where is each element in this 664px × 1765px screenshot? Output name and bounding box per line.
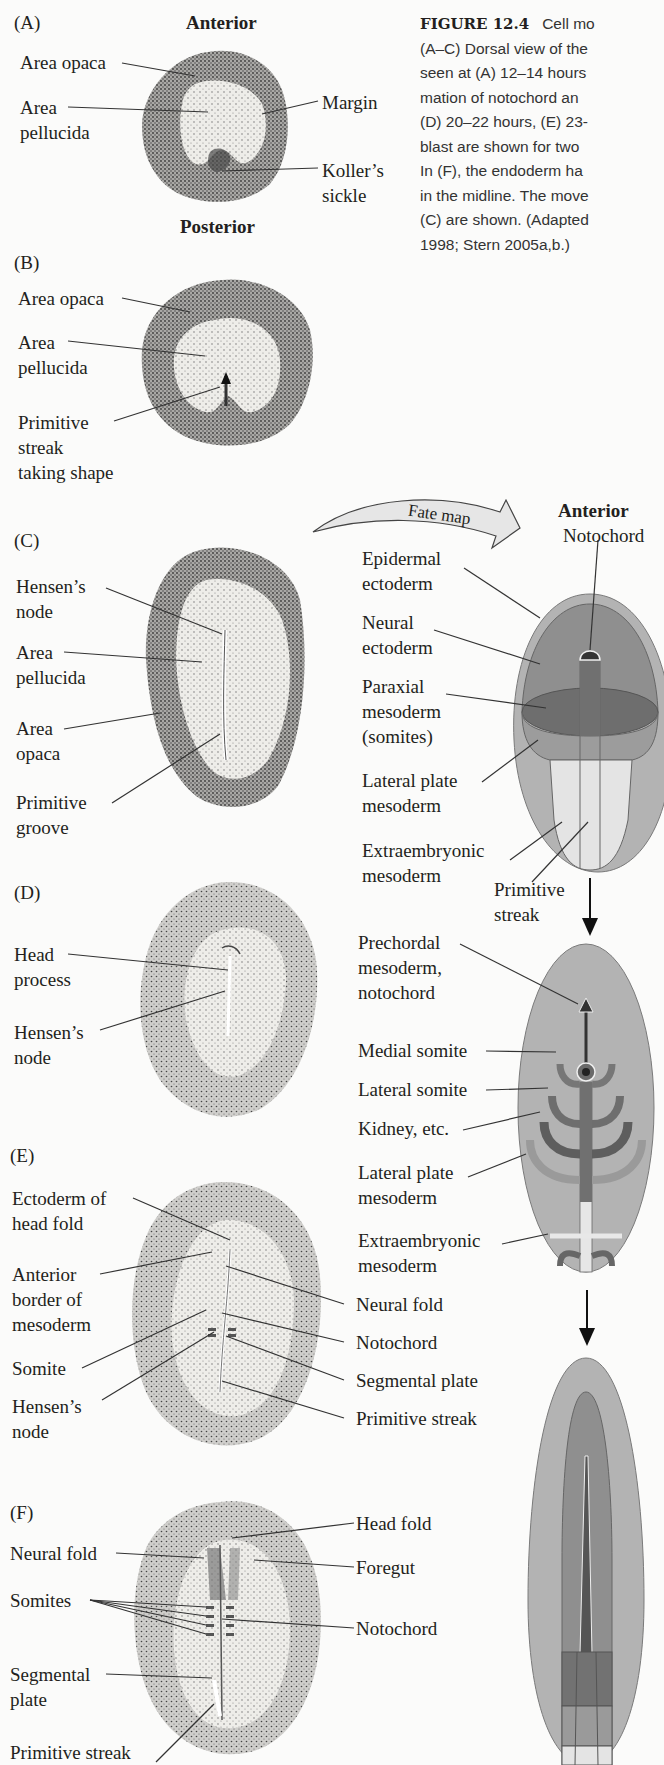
embryo-f [134, 1501, 321, 1754]
label-anterior-border-of-mesoderm: Anterior border of mesoderm [12, 1262, 91, 1337]
label-primitive-streak: Primitive streak [10, 1740, 131, 1765]
caption-line: in the midline. The move [420, 184, 664, 209]
label-area-pellucida: Area pellucida [16, 640, 86, 690]
label-neural-fold: Neural fold [356, 1292, 443, 1317]
label-notochord: Notochord [356, 1330, 437, 1355]
caption-line: mation of notochord an [420, 86, 664, 111]
fate-map-notochord: Notochord [563, 523, 644, 548]
label-ectoderm-of-head-fold: Ectoderm of head fold [12, 1186, 106, 1236]
label-primitive-streak: Primitive streak [494, 877, 565, 927]
panel-a-tag: (A) [14, 10, 40, 35]
caption-line: (A–C) Dorsal view of the [420, 37, 664, 62]
embryo-b [142, 279, 313, 445]
label-area-opaca: Area opaca [20, 50, 106, 75]
fate-map-anterior: Anterior [558, 498, 629, 523]
panel-e-tag: (E) [10, 1143, 34, 1168]
label-segmental-plate: Segmental plate [10, 1662, 90, 1712]
label-head-fold: Head fold [356, 1511, 431, 1536]
panel-b-tag: (B) [14, 250, 39, 275]
label-prechordal-mesoderm-notochord: Prechordal mesoderm, notochord [358, 930, 442, 1005]
figure-caption: FIGURE 12.4 Cell mo (A–C) Dorsal view of… [420, 12, 664, 257]
label-lateral-plate-mesoderm: Lateral plate mesoderm [358, 1160, 453, 1210]
label-primitive-groove: Primitive groove [16, 790, 87, 840]
embryo-d [140, 882, 317, 1117]
panel-f-tag: (F) [10, 1500, 33, 1525]
embryo-a [142, 51, 288, 202]
label-neural-fold: Neural fold [10, 1541, 97, 1566]
label-foregut: Foregut [356, 1555, 415, 1580]
label-kollers-sickle: Koller’s sickle [322, 158, 384, 208]
fate-map-embryo-1 [514, 594, 664, 872]
label-lateral-plate-mesoderm: Lateral plate mesoderm [362, 768, 457, 818]
fate-map-embryo-3 [528, 1358, 644, 1765]
label-extraembryonic-mesoderm: Extraembryonic mesoderm [358, 1228, 480, 1278]
panel-c-tag: (C) [14, 528, 39, 553]
caption-line: blast are shown for two [420, 135, 664, 160]
label-notochord: Notochord [356, 1616, 437, 1641]
label-head-process: Head process [14, 942, 71, 992]
caption-line: 1998; Stern 2005a,b.) [420, 233, 664, 258]
label-extraembryonic-mesoderm: Extraembryonic mesoderm [362, 838, 484, 888]
label-kidney-etc: Kidney, etc. [358, 1116, 449, 1141]
label-lateral-somite: Lateral somite [358, 1077, 467, 1102]
panel-d-tag: (D) [14, 880, 40, 905]
label-primitive-streak: Primitive streak [356, 1406, 477, 1431]
panel-a-anterior: Anterior [186, 10, 257, 35]
fate-map-embryo-2 [518, 944, 654, 1272]
caption-line: (C) are shown. (Adapted [420, 208, 664, 233]
label-neural-ectoderm: Neural ectoderm [362, 610, 433, 660]
caption-line: Cell mo [542, 15, 595, 32]
label-primitive-streak-taking-shape: Primitive streak taking shape [18, 410, 114, 485]
figure-label: FIGURE 12.4 [420, 15, 529, 33]
label-area-pellucida: Area pellucida [20, 95, 90, 145]
embryo-c [146, 547, 305, 807]
label-hensens-node: Hensen’s node [14, 1020, 84, 1070]
caption-line: seen at (A) 12–14 hours [420, 61, 664, 86]
label-segmental-plate: Segmental plate [356, 1368, 478, 1393]
panel-a-posterior: Posterior [180, 214, 255, 239]
label-area-pellucida: Area pellucida [18, 330, 88, 380]
label-hensens-node: Hensen’s node [16, 574, 86, 624]
label-epidermal-ectoderm: Epidermal ectoderm [362, 546, 441, 596]
caption-line: (D) 20–22 hours, (E) 23- [420, 110, 664, 135]
label-hensens-node: Hensen’s node [12, 1394, 82, 1444]
label-somite: Somite [12, 1356, 66, 1381]
label-medial-somite: Medial somite [358, 1038, 467, 1063]
label-somites: Somites [10, 1588, 71, 1613]
caption-line: In (F), the endoderm ha [420, 159, 664, 184]
label-paraxial-mesoderm: Paraxial mesoderm (somites) [362, 674, 441, 749]
label-area-opaca: Area opaca [16, 716, 60, 766]
label-margin: Margin [322, 90, 378, 115]
label-area-opaca: Area opaca [18, 286, 104, 311]
